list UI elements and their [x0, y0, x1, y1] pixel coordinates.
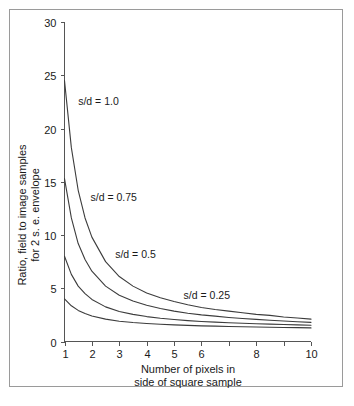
x-axis-title-line1: Number of pixels in [141, 363, 235, 375]
y-axis-title-line2: for 2 s. e. envelope [29, 168, 41, 262]
x-axis-title-line2: side of square sample [134, 376, 242, 388]
y-axis-ticks: 051015202530 [44, 17, 64, 349]
y-tick-label: 25 [44, 70, 56, 82]
x-tick-label: 8 [253, 348, 259, 360]
series-label: s/d = 0.25 [184, 289, 231, 301]
x-axis-title: Number of pixels in side of square sampl… [134, 363, 242, 388]
y-axis-title-line1: Ratio, field to image samples [16, 144, 28, 286]
series-label: s/d = 0.5 [115, 248, 156, 260]
x-tick-label: 6 [198, 348, 204, 360]
x-tick-label: 1 [62, 348, 68, 360]
y-tick-label: 5 [50, 283, 56, 295]
chart-plot: 051015202530 123456810 s/d = 1.0s/d = 0.… [0, 0, 354, 406]
x-tick-label: 3 [116, 348, 122, 360]
x-tick-label: 10 [305, 348, 317, 360]
x-axis-ticks: 123456810 [62, 342, 317, 360]
y-tick-label: 0 [50, 337, 56, 349]
x-tick-label: 4 [144, 348, 150, 360]
series-annotations: s/d = 1.0s/d = 0.75s/d = 0.5s/d = 0.25 [78, 95, 230, 301]
y-tick-label: 20 [44, 124, 56, 136]
chart-root: 051015202530 123456810 s/d = 1.0s/d = 0.… [0, 0, 354, 406]
y-tick-label: 15 [44, 177, 56, 189]
x-tick-label: 2 [89, 348, 95, 360]
y-axis-title: Ratio, field to image samples for 2 s. e… [16, 144, 41, 286]
y-tick-label: 30 [44, 17, 56, 29]
series-label: s/d = 0.75 [91, 191, 138, 203]
y-tick-label: 10 [44, 230, 56, 242]
x-tick-label: 5 [171, 348, 177, 360]
series-label: s/d = 1.0 [78, 95, 119, 107]
